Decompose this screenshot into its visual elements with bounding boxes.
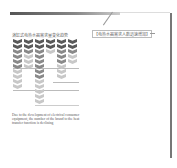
chevron-glyph [13,69,22,74]
chevron-glyph [24,44,33,49]
chart-column-5 [57,39,66,79]
chevron-glyph [35,54,44,59]
callout-label: 【电热水器需求人数迅速增加】 [92,30,152,38]
chevron-glyph [13,49,22,54]
chevron-glyph [13,84,22,89]
chevron-glyph [35,74,44,79]
header-rule-thin [120,12,170,13]
chevron-glyph [13,54,22,59]
chevron-glyph [68,44,77,49]
chevron-glyph [68,39,77,44]
chevron-glyph [35,44,44,49]
chevron-glyph [57,64,66,69]
chart-column-6 [68,39,77,64]
chevron-glyph [68,54,77,59]
chevron-glyph [24,64,33,69]
chevron-glyph [57,74,66,79]
chart-column-3 [35,39,44,104]
chevron-glyph [35,64,44,69]
reference-line [13,68,79,69]
chevron-glyph [24,54,33,59]
chart-column-2 [24,39,33,69]
chevron-glyph [35,59,44,64]
reference-line [13,90,79,91]
chevron-glyph [13,64,22,69]
chevron-glyph [35,84,44,89]
callout-dash [150,33,155,34]
chevron-glyph [35,99,44,104]
figure-title: 浴缸式电热水器需求量变化趋势 [12,32,68,38]
chevron-glyph [35,89,44,94]
reference-line [35,105,79,106]
header-rule [10,12,120,15]
chevron-glyph [68,49,77,54]
chart-column-4 [46,39,55,54]
chevron-glyph [57,39,66,44]
chevron-glyph [46,39,55,44]
figure-caption: Due to the development of electrical con… [12,113,80,126]
reference-line [53,82,79,83]
chevron-glyph [68,59,77,64]
chevron-glyph [13,59,22,64]
chevron-glyph [46,44,55,49]
chevron-glyph [24,59,33,64]
chevron-glyph [57,59,66,64]
chevron-glyph [13,44,22,49]
chevron-glyph [57,49,66,54]
chevron-glyph [13,39,22,44]
chevron-glyph [35,79,44,84]
chevron-glyph [46,49,55,54]
chevron-glyph [35,94,44,99]
chevron-glyph [57,44,66,49]
page-edge-bar [170,13,172,158]
chevron-glyph [35,39,44,44]
chevron-glyph [57,69,66,74]
chevron-glyph [24,49,33,54]
chart-column-1 [13,39,22,89]
chevron-glyph [35,69,44,74]
chevron-glyph [13,74,22,79]
pictogram-chart [13,39,79,109]
chevron-glyph [13,79,22,84]
chevron-glyph [24,39,33,44]
chevron-glyph [35,49,44,54]
chevron-glyph [57,54,66,59]
